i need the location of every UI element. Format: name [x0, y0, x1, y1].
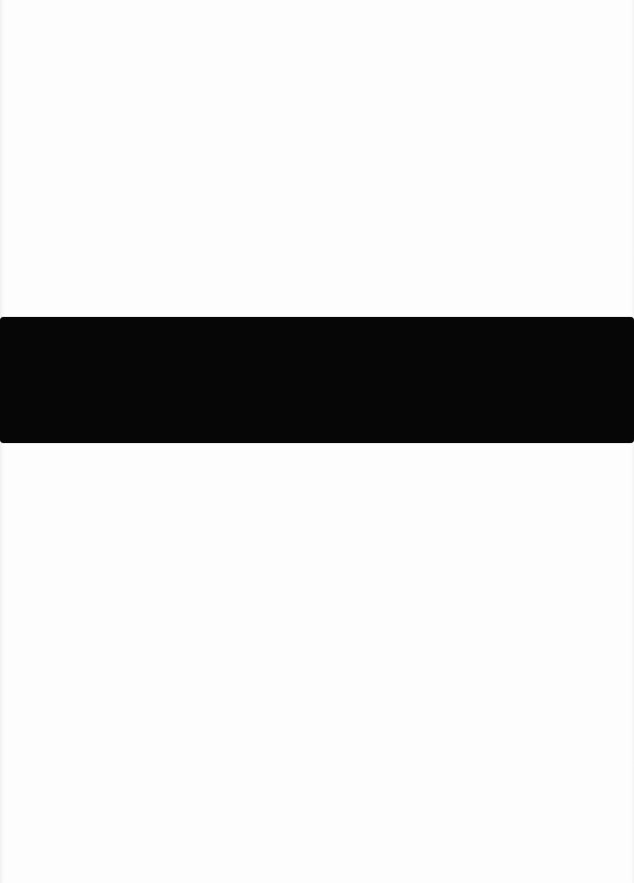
scanned-page: [0, 0, 634, 883]
redaction-bar: [0, 317, 634, 443]
